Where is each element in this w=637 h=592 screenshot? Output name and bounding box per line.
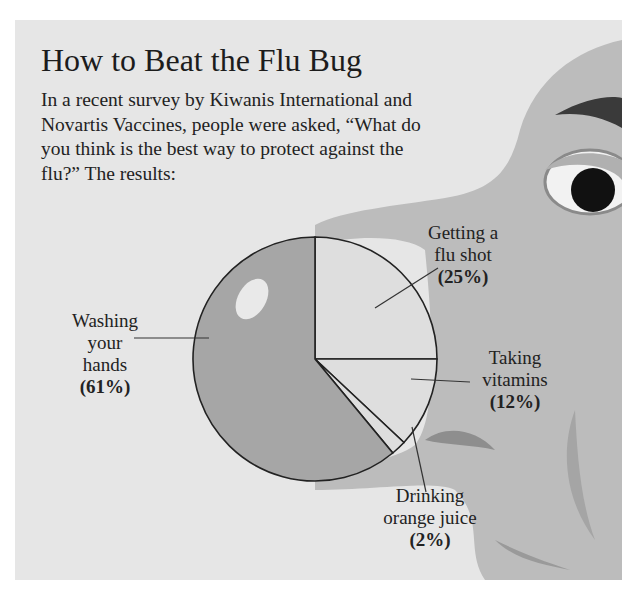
chart-subtitle: In a recent survey by Kiwanis Internatio… [41, 88, 441, 186]
label-text: your [60, 332, 150, 354]
label-percent: (2%) [365, 529, 495, 551]
label-washing-hands: Washing your hands (61%) [60, 310, 150, 398]
label-vitamins: Taking vitamins (12%) [460, 347, 570, 413]
chart-title: How to Beat the Flu Bug [41, 42, 362, 78]
label-text: Washing [60, 310, 150, 332]
pupil-icon [571, 168, 615, 212]
label-text: flu shot [403, 244, 523, 266]
label-text: orange juice [365, 507, 495, 529]
label-text: Drinking [365, 485, 495, 507]
label-flu-shot: Getting a flu shot (25%) [403, 222, 523, 288]
infographic-panel: How to Beat the Flu Bug In a recent surv… [15, 20, 622, 580]
label-text: vitamins [460, 369, 570, 391]
label-text: Taking [460, 347, 570, 369]
label-percent: (25%) [403, 266, 523, 288]
label-text: hands [60, 354, 150, 376]
label-text: Getting a [403, 222, 523, 244]
label-percent: (12%) [460, 391, 570, 413]
label-orange-juice: Drinking orange juice (2%) [365, 485, 495, 551]
label-percent: (61%) [60, 376, 150, 398]
